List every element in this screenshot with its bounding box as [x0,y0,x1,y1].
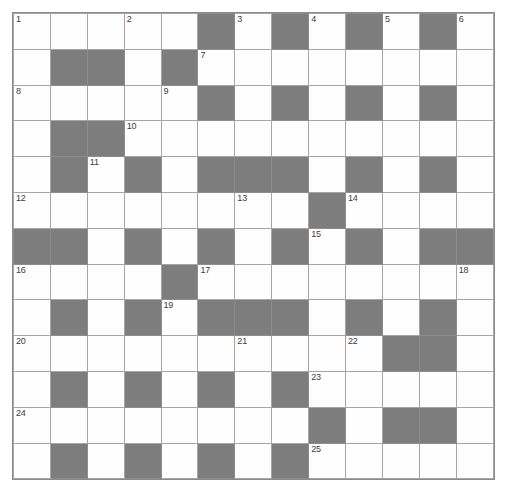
letter-cell[interactable] [346,264,383,300]
letter-cell[interactable] [161,336,198,372]
letter-cell[interactable]: 16 [14,264,51,300]
letter-cell[interactable] [124,264,161,300]
letter-cell[interactable] [382,443,419,479]
letter-cell[interactable] [346,407,383,443]
letter-cell[interactable] [309,264,346,300]
letter-cell[interactable] [272,49,309,85]
letter-cell[interactable]: 12 [14,192,51,228]
letter-cell[interactable]: 24 [14,407,51,443]
letter-cell[interactable]: 6 [456,14,493,50]
letter-cell[interactable] [382,300,419,336]
letter-cell[interactable] [50,192,87,228]
letter-cell[interactable] [235,371,272,407]
letter-cell[interactable] [456,300,493,336]
letter-cell[interactable] [235,228,272,264]
letter-cell[interactable] [50,85,87,121]
letter-cell[interactable] [235,407,272,443]
letter-cell[interactable] [456,85,493,121]
letter-cell[interactable]: 13 [235,192,272,228]
letter-cell[interactable] [382,228,419,264]
letter-cell[interactable] [382,264,419,300]
letter-cell[interactable] [124,336,161,372]
letter-cell[interactable]: 14 [346,192,383,228]
letter-cell[interactable]: 19 [161,300,198,336]
letter-cell[interactable]: 20 [14,336,51,372]
letter-cell[interactable] [309,85,346,121]
crossword-grid[interactable]: 1234567891011121314151617181920212223242… [13,13,494,479]
letter-cell[interactable] [309,49,346,85]
letter-cell[interactable] [87,228,124,264]
letter-cell[interactable] [456,407,493,443]
letter-cell[interactable] [309,300,346,336]
letter-cell[interactable] [456,371,493,407]
letter-cell[interactable]: 2 [124,14,161,50]
letter-cell[interactable] [419,443,456,479]
letter-cell[interactable] [14,121,51,157]
letter-cell[interactable] [161,443,198,479]
letter-cell[interactable] [87,371,124,407]
letter-cell[interactable] [419,49,456,85]
letter-cell[interactable] [87,336,124,372]
letter-cell[interactable] [346,121,383,157]
letter-cell[interactable] [272,407,309,443]
letter-cell[interactable] [14,157,51,193]
letter-cell[interactable] [161,371,198,407]
letter-cell[interactable] [198,192,235,228]
letter-cell[interactable] [124,407,161,443]
letter-cell[interactable] [14,371,51,407]
letter-cell[interactable]: 10 [124,121,161,157]
letter-cell[interactable] [382,371,419,407]
letter-cell[interactable] [161,228,198,264]
letter-cell[interactable]: 22 [346,336,383,372]
letter-cell[interactable] [87,192,124,228]
letter-cell[interactable] [161,192,198,228]
letter-cell[interactable]: 21 [235,336,272,372]
letter-cell[interactable] [419,264,456,300]
letter-cell[interactable] [382,85,419,121]
letter-cell[interactable] [161,14,198,50]
letter-cell[interactable] [309,336,346,372]
letter-cell[interactable]: 7 [198,49,235,85]
letter-cell[interactable] [161,157,198,193]
letter-cell[interactable]: 17 [198,264,235,300]
letter-cell[interactable] [456,192,493,228]
letter-cell[interactable]: 4 [309,14,346,50]
letter-cell[interactable] [419,121,456,157]
letter-cell[interactable]: 8 [14,85,51,121]
letter-cell[interactable] [272,192,309,228]
letter-cell[interactable] [419,371,456,407]
letter-cell[interactable] [50,14,87,50]
letter-cell[interactable] [50,264,87,300]
letter-cell[interactable]: 3 [235,14,272,50]
letter-cell[interactable]: 18 [456,264,493,300]
letter-cell[interactable] [235,85,272,121]
letter-cell[interactable] [309,157,346,193]
letter-cell[interactable] [272,121,309,157]
letter-cell[interactable] [456,336,493,372]
letter-cell[interactable] [346,49,383,85]
letter-cell[interactable] [161,121,198,157]
letter-cell[interactable] [346,371,383,407]
letter-cell[interactable] [198,121,235,157]
letter-cell[interactable] [50,407,87,443]
letter-cell[interactable]: 11 [87,157,124,193]
letter-cell[interactable] [124,49,161,85]
letter-cell[interactable] [382,157,419,193]
letter-cell[interactable] [382,121,419,157]
letter-cell[interactable] [198,407,235,443]
letter-cell[interactable] [124,192,161,228]
letter-cell[interactable] [50,336,87,372]
letter-cell[interactable] [456,443,493,479]
letter-cell[interactable] [198,336,235,372]
letter-cell[interactable] [309,121,346,157]
letter-cell[interactable] [382,49,419,85]
letter-cell[interactable] [87,300,124,336]
letter-cell[interactable] [419,192,456,228]
letter-cell[interactable] [235,121,272,157]
letter-cell[interactable] [161,407,198,443]
letter-cell[interactable] [456,49,493,85]
letter-cell[interactable]: 15 [309,228,346,264]
letter-cell[interactable] [272,264,309,300]
letter-cell[interactable] [14,443,51,479]
letter-cell[interactable] [87,85,124,121]
